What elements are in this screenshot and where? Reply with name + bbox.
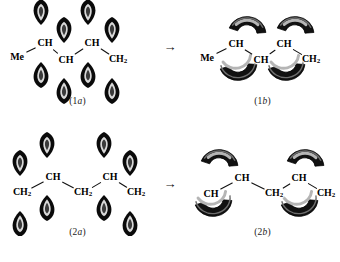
orbital-canvas-2b: CHCHCH2CHCH2 xyxy=(185,131,340,236)
caption-prefix: (2 xyxy=(254,227,262,237)
structure-caption-1a: (1a) xyxy=(0,96,155,106)
rightwards-arrow-icon: → xyxy=(164,40,177,53)
orbital-canvas-2b-svg xyxy=(185,131,340,236)
reaction-row-2: CH2CHCH2CHCH2 (2a) → CHCHCH2CHCH2 (2b) xyxy=(0,131,340,262)
atom-label: CH xyxy=(229,39,244,49)
atom-label: CH2 xyxy=(127,187,145,199)
orbital-reaction-figure: MeCHCHCHCH2 (1a) → MeCHCHCHCH2 (1b) CH2C… xyxy=(0,0,340,262)
atom-label-subscript: 2 xyxy=(280,191,283,199)
atom-label: Me xyxy=(10,52,24,62)
structure-panel-2a: CH2CHCH2CHCH2 (2a) xyxy=(0,131,155,262)
reaction-arrow-2: → xyxy=(155,175,185,191)
caption-prefix: (2 xyxy=(69,227,77,237)
atom-label: CH2 xyxy=(109,54,127,66)
atom-label: CH xyxy=(103,172,118,182)
caption-prefix: (1 xyxy=(69,96,77,106)
atom-label-subscript: 2 xyxy=(317,57,320,65)
atom-label: CH2 xyxy=(13,187,31,199)
atom-label: CH2 xyxy=(317,188,335,200)
atom-label: CH xyxy=(254,55,269,65)
caption-suffix: ) xyxy=(82,96,85,106)
atom-label-subscript: 2 xyxy=(124,57,127,65)
atom-label: CH2 xyxy=(265,188,283,200)
orbital-canvas-2a-svg xyxy=(0,131,155,236)
structure-panel-1b: MeCHCHCHCH2 (1b) xyxy=(185,0,340,131)
orbital-canvas-2a: CH2CHCH2CHCH2 xyxy=(0,131,155,236)
atom-label: Me xyxy=(200,53,214,63)
atom-label-subscript: 2 xyxy=(28,190,31,198)
atom-label-subscript: 2 xyxy=(89,190,92,198)
caption-suffix: ) xyxy=(82,227,85,237)
orbital-group xyxy=(13,132,138,236)
atom-label: CH xyxy=(204,189,219,199)
caption-suffix: ) xyxy=(267,227,270,237)
atom-label-subscript: 2 xyxy=(142,190,145,198)
atom-label-subscript: 2 xyxy=(332,191,335,199)
atom-label: CH2 xyxy=(74,187,92,199)
structure-panel-2b: CHCHCH2CHCH2 (2b) xyxy=(185,131,340,262)
reaction-row-1: MeCHCHCHCH2 (1a) → MeCHCHCHCH2 (1b) xyxy=(0,0,340,131)
atom-label: CH xyxy=(277,39,292,49)
atom-label: CH2 xyxy=(302,54,320,66)
reaction-arrow-1: → xyxy=(155,38,185,54)
caption-prefix: (1 xyxy=(254,96,262,106)
atom-label: CH xyxy=(85,38,100,48)
atom-label: CH xyxy=(235,173,250,183)
structure-caption-1b: (1b) xyxy=(185,96,340,106)
atom-label: CH xyxy=(292,173,307,183)
rightwards-arrow-icon: → xyxy=(164,177,177,190)
atom-label: CH xyxy=(38,38,53,48)
structure-caption-2a: (2a) xyxy=(0,227,155,237)
structure-caption-2b: (2b) xyxy=(185,227,340,237)
atom-label: CH xyxy=(46,172,61,182)
structure-panel-1a: MeCHCHCHCH2 (1a) xyxy=(0,0,155,131)
atom-label: CH xyxy=(59,55,74,65)
caption-suffix: ) xyxy=(267,96,270,106)
orbital-group xyxy=(195,150,324,217)
orbital-canvas-1a: MeCHCHCHCH2 xyxy=(0,0,155,105)
orbital-canvas-1b: MeCHCHCHCH2 xyxy=(185,0,340,105)
